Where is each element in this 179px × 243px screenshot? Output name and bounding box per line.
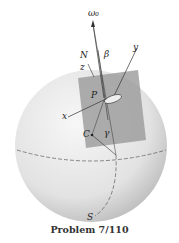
label-beta: β	[104, 50, 109, 59]
label-y: y	[133, 43, 138, 52]
figure-caption: Problem 7/110	[0, 224, 179, 235]
label-x: x	[62, 112, 67, 121]
label-n: N	[80, 51, 88, 60]
label-p: P	[91, 91, 97, 100]
label-omega0: ω₀	[88, 9, 99, 18]
omega-arrowhead-icon	[91, 20, 95, 27]
problem-figure: ω₀ N β z y P x C γ S Problem 7/110	[0, 0, 179, 243]
label-z: z	[80, 63, 85, 72]
label-gamma: γ	[104, 129, 109, 138]
label-c: C	[83, 130, 90, 139]
c-point	[91, 134, 94, 137]
sphere-diagram	[0, 0, 179, 243]
label-s: S	[87, 213, 93, 222]
